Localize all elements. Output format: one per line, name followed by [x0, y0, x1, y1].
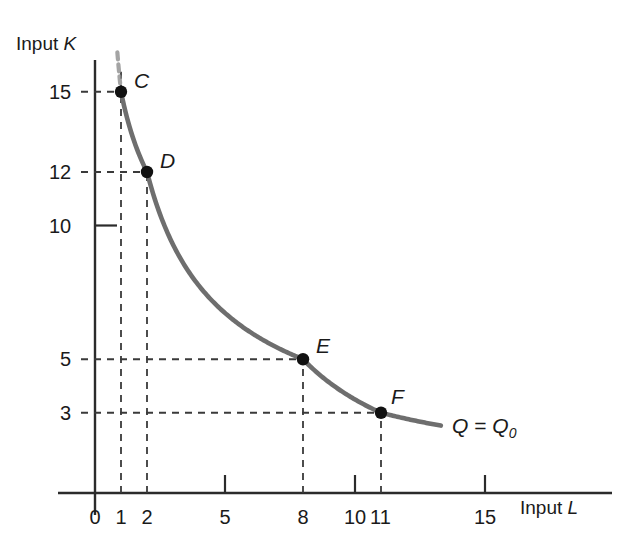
data-point-D [141, 166, 153, 178]
x-tick-label-11: 11 [370, 507, 391, 527]
x-tick-label-10: 10 [344, 507, 366, 527]
isoquant-figure: Input K Input L Q = Q0 01258101115151210… [0, 0, 638, 557]
y-tick-label-12: 12 [49, 162, 71, 182]
x-tick-label-1: 1 [116, 507, 127, 527]
y-tick-label-15: 15 [49, 82, 71, 102]
isoquant-label-subscript: 0 [509, 425, 517, 441]
isoquant-plot [0, 0, 638, 557]
data-point-C [115, 86, 127, 98]
point-label-C: C [134, 70, 149, 91]
x-tick-label-5: 5 [220, 507, 231, 527]
y-tick-label-3: 3 [60, 403, 71, 423]
point-label-E: E [316, 335, 330, 356]
y-axis-title-prefix: Input [16, 33, 64, 54]
axis-lines [58, 60, 612, 515]
y-tick-label-10: 10 [49, 216, 71, 236]
guide-lines [81, 70, 381, 493]
y-tick-label-5: 5 [60, 349, 71, 369]
point-label-F: F [391, 386, 404, 407]
y-axis-title: Input K [16, 34, 76, 53]
x-tick-label-15: 15 [474, 507, 496, 527]
isoquant-curve-label: Q = Q0 [452, 415, 516, 440]
x-tick-label-2: 2 [142, 507, 153, 527]
isoquant-label-q0: Q [492, 414, 508, 437]
y-axis-title-variable: K [64, 33, 77, 54]
x-axis-title-prefix: Input [520, 497, 568, 518]
data-point-E [297, 353, 309, 365]
x-tick-label-8: 8 [298, 507, 309, 527]
x-tick-label-0: 0 [90, 507, 101, 527]
x-axis-title-variable: L [568, 497, 579, 518]
x-axis-title: Input L [520, 498, 578, 517]
isoquant-label-q: Q [452, 414, 468, 437]
isoquant-label-equals: = [468, 414, 492, 437]
data-point-F [375, 407, 387, 419]
data-points [115, 86, 387, 419]
isoquant-curve [121, 92, 441, 426]
point-label-D: D [160, 150, 175, 171]
